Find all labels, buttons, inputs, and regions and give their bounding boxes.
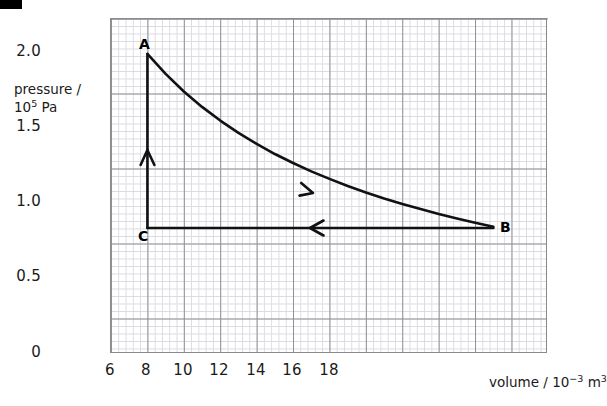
x-tick-label-14: 14 [236,363,276,378]
x-axis-title-exponent: −3 [569,373,583,384]
x-tick-label-10: 10 [163,363,203,378]
arrowhead-a-to-b [300,183,314,196]
corner-marker-block [0,0,22,9]
x-tick-label-16: 16 [272,363,312,378]
x-tick-label-12: 12 [199,363,239,378]
y-axis-title-mantissa: 10 [14,99,31,115]
x-axis-title-mantissa: volume / 10 [489,374,569,390]
y-tick-label-0-5: 0.5 [0,269,41,284]
y-tick-label-1-5: 1.5 [0,119,41,134]
y-tick-label-0: 0 [0,345,41,360]
y-axis-title-line1: pressure / [14,81,81,97]
x-tick-label-8: 8 [126,363,166,378]
y-tick-label-1-0: 1.0 [0,194,41,209]
point-label-a: A [139,37,150,51]
cropped-top-text [60,0,480,4]
x-tick-label-18: 18 [309,363,349,378]
curve-a-to-b [147,54,493,227]
x-axis-title-unit: m [583,374,600,390]
plot-area [110,18,547,353]
x-axis-title-unit-exponent: 3 [601,373,607,384]
y-tick-label-2-0: 2.0 [0,44,41,59]
point-label-c: C [138,229,148,243]
x-axis-title: volume / 10−3 m3 [489,376,607,390]
point-label-b: B [500,220,511,234]
y-axis-title: pressure / 105 Pa [14,80,106,116]
x-tick-label-6: 6 [90,363,130,378]
pv-diagram-svg [111,19,548,354]
y-axis-title-unit: Pa [37,99,57,115]
